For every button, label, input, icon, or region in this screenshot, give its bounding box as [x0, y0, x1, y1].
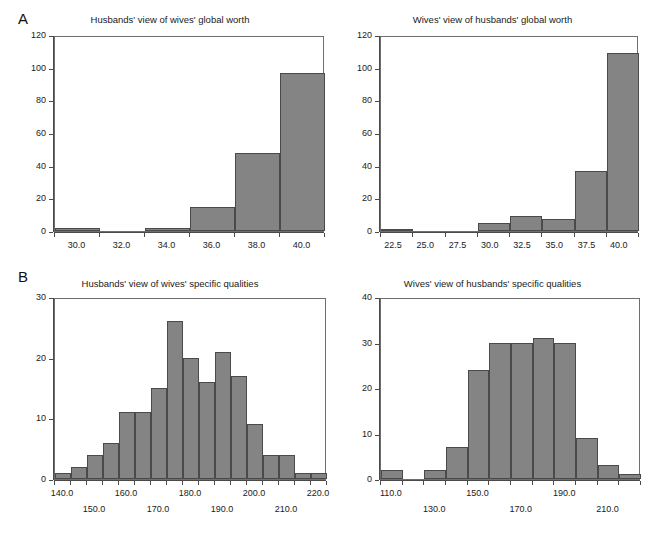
histogram-bar — [151, 388, 167, 479]
y-tick-mark — [49, 167, 53, 168]
x-tick-mark — [294, 481, 295, 485]
histogram-bar — [533, 338, 555, 479]
x-tick-mark — [638, 233, 639, 237]
histogram-bar — [311, 473, 327, 479]
x-tick-mark — [234, 233, 235, 237]
histogram-bar — [199, 382, 215, 479]
histogram-bar — [135, 412, 151, 479]
x-tick-mark — [279, 233, 280, 237]
x-tick-mark — [326, 481, 327, 485]
histogram-bar — [279, 455, 295, 479]
x-tick-label: 32.0 — [113, 240, 131, 250]
histogram-bar — [231, 376, 247, 479]
x-tick-mark — [640, 481, 641, 485]
histogram-bar — [190, 207, 235, 232]
y-tick-mark — [49, 101, 53, 102]
histogram-bar — [576, 438, 598, 479]
x-tick-mark — [262, 481, 263, 485]
histogram-bar — [381, 229, 413, 231]
chart-husbands-specific-qualities: Husbands' view of wives' specific qualit… — [10, 278, 330, 533]
histogram-bar — [575, 171, 607, 231]
x-tick-mark — [310, 481, 311, 485]
histogram-bar — [183, 358, 199, 479]
chart-wives-specific-qualities: Wives' view of husbands' specific qualit… — [340, 278, 645, 533]
plot-area — [54, 298, 326, 480]
x-tick-mark — [324, 233, 325, 237]
y-tick-label: 60 — [338, 128, 372, 138]
x-tick-mark — [477, 233, 478, 237]
histogram-bar — [478, 223, 510, 231]
x-tick-label: 37.5 — [578, 240, 596, 250]
x-tick-label: 30.0 — [68, 240, 86, 250]
x-tick-label: 170.0 — [510, 504, 533, 514]
y-tick-mark — [49, 232, 53, 233]
x-tick-mark — [134, 481, 135, 485]
y-tick-label: 40 — [338, 292, 372, 302]
histogram-bar — [511, 343, 533, 480]
x-tick-mark — [541, 233, 542, 237]
histogram-bar — [247, 424, 263, 479]
histogram-bar — [215, 352, 231, 479]
histogram-bar — [280, 73, 325, 231]
x-tick-label: 25.0 — [416, 240, 434, 250]
bars-group — [55, 299, 325, 479]
y-tick-label: 20 — [338, 383, 372, 393]
x-tick-label: 160.0 — [115, 488, 138, 498]
histogram-bar — [55, 228, 100, 231]
x-tick-mark — [445, 481, 446, 485]
x-tick-mark — [166, 481, 167, 485]
histogram-bar — [542, 219, 574, 231]
x-tick-mark — [150, 481, 151, 485]
y-tick-mark — [49, 69, 53, 70]
histogram-bar — [119, 412, 135, 479]
y-tick-mark — [49, 480, 53, 481]
y-tick-label: 20 — [338, 193, 372, 203]
x-tick-mark — [54, 481, 55, 485]
x-tick-mark — [380, 233, 381, 237]
y-tick-label: 10 — [12, 413, 46, 423]
x-tick-mark — [214, 481, 215, 485]
y-tick-label: 0 — [12, 474, 46, 484]
x-tick-mark — [402, 481, 403, 485]
chart-wives-global-worth: Wives' view of husbands' global worth 02… — [340, 14, 645, 260]
histogram-bar — [381, 470, 403, 479]
y-tick-label: 30 — [338, 338, 372, 348]
chart-title: Wives' view of husbands' global worth — [340, 14, 645, 25]
y-tick-mark — [49, 134, 53, 135]
x-tick-label: 110.0 — [380, 488, 402, 498]
histogram-bar — [424, 470, 446, 479]
x-tick-mark — [575, 481, 576, 485]
y-tick-label: 80 — [12, 95, 46, 105]
x-tick-label: 210.0 — [596, 504, 619, 514]
x-tick-mark — [70, 481, 71, 485]
x-tick-label: 32.5 — [513, 240, 531, 250]
y-tick-label: 40 — [338, 161, 372, 171]
x-tick-label: 170.0 — [147, 504, 170, 514]
bars-group — [55, 37, 323, 231]
y-tick-mark — [375, 344, 379, 345]
histogram-bar — [295, 473, 311, 479]
y-tick-label: 60 — [12, 128, 46, 138]
y-tick-mark — [375, 167, 379, 168]
x-tick-mark — [509, 233, 510, 237]
histogram-bar — [71, 467, 87, 479]
x-tick-mark — [182, 481, 183, 485]
y-axis-spine — [53, 36, 54, 232]
y-tick-mark — [49, 298, 53, 299]
y-tick-mark — [375, 36, 379, 37]
y-tick-mark — [375, 298, 379, 299]
x-tick-label: 30.0 — [481, 240, 499, 250]
y-tick-mark — [375, 389, 379, 390]
y-axis-spine — [53, 298, 54, 480]
y-tick-label: 80 — [338, 95, 372, 105]
x-tick-label: 150.0 — [466, 488, 489, 498]
histogram-bar — [607, 53, 639, 231]
figure-histogram-grid: A B Husbands' view of wives' global wort… — [0, 0, 649, 539]
x-tick-label: 22.5 — [384, 240, 402, 250]
y-tick-label: 0 — [338, 474, 372, 484]
y-tick-mark — [375, 69, 379, 70]
y-tick-label: 120 — [12, 30, 46, 40]
histogram-bar — [103, 443, 119, 479]
chart-husbands-global-worth: Husbands' view of wives' global worth 02… — [10, 14, 330, 260]
histogram-bar — [235, 153, 280, 231]
